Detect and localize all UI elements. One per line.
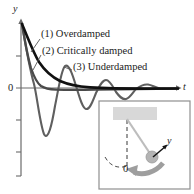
inset-displacement-label: y	[167, 136, 171, 146]
pendulum-inset	[99, 101, 190, 189]
inset-origin-label: 0	[123, 164, 128, 175]
y-axis-label: y	[13, 4, 17, 14]
curve-label-overdamped: (1) Overdamped	[41, 29, 110, 40]
curve-label-underdamped: (3) Underdamped	[73, 62, 147, 73]
damped-oscillation-figure: y t 0 (1) Overdamped (2) Critically damp…	[0, 0, 194, 194]
origin-label: 0	[8, 83, 13, 94]
inset-pendulum-bob	[146, 151, 158, 163]
curve-label-critically-damped: (2) Critically damped	[42, 46, 132, 57]
t-axis-label: t	[183, 82, 186, 92]
inset-support-block	[113, 107, 157, 120]
